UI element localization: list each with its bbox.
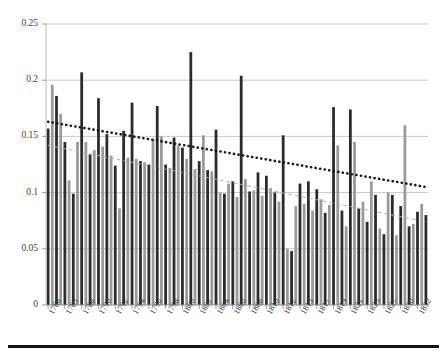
bar xyxy=(114,166,117,305)
chart-container: 00.050.10.150.20.25 17681783178817901792… xyxy=(0,0,447,360)
bottom-divider-rule xyxy=(8,345,439,348)
bar xyxy=(202,135,205,305)
bar xyxy=(223,194,226,305)
y-tick-label: 0.05 xyxy=(2,243,38,253)
bar xyxy=(181,148,184,305)
bar xyxy=(273,193,276,305)
bar xyxy=(189,52,192,305)
bar xyxy=(320,199,323,305)
bar xyxy=(206,170,209,305)
bar xyxy=(84,142,87,305)
bar xyxy=(80,72,83,305)
bar xyxy=(303,204,306,305)
bar xyxy=(299,184,302,305)
bar xyxy=(227,184,230,305)
y-tick-label: 0.2 xyxy=(2,74,38,84)
bar xyxy=(135,159,138,305)
y-tick-label: 0.1 xyxy=(2,187,38,197)
bar xyxy=(261,196,264,305)
bar xyxy=(404,125,407,305)
bar xyxy=(269,188,272,305)
bar xyxy=(101,147,104,305)
bar xyxy=(160,136,163,305)
bar xyxy=(412,224,415,305)
bar xyxy=(328,205,331,305)
bar xyxy=(143,162,146,305)
bar xyxy=(341,211,344,305)
bar xyxy=(47,129,50,305)
bar xyxy=(332,107,335,305)
bar xyxy=(416,212,419,305)
bar xyxy=(59,114,62,305)
bar xyxy=(105,134,108,305)
bar xyxy=(425,215,428,305)
bar xyxy=(210,171,213,305)
bar xyxy=(72,194,75,305)
bar xyxy=(307,181,310,305)
bar xyxy=(353,142,356,305)
y-tick-label: 0 xyxy=(2,299,38,309)
bar xyxy=(383,234,386,305)
bar xyxy=(244,179,247,305)
bar xyxy=(76,142,79,305)
bar xyxy=(294,206,297,305)
bar xyxy=(231,181,234,305)
bar xyxy=(126,158,129,305)
bar xyxy=(362,202,365,305)
bar xyxy=(198,161,201,305)
bar xyxy=(265,176,268,305)
bar xyxy=(395,235,398,305)
bar xyxy=(248,191,251,305)
bar xyxy=(282,135,285,305)
bar xyxy=(399,206,402,305)
bar xyxy=(177,145,180,305)
bar xyxy=(147,165,150,306)
bar xyxy=(173,138,176,305)
bar xyxy=(374,195,377,305)
bar xyxy=(311,211,314,305)
bar xyxy=(55,96,58,305)
bar xyxy=(110,156,113,305)
bar xyxy=(387,193,390,305)
bar xyxy=(64,142,67,305)
bar xyxy=(357,208,360,305)
bar xyxy=(315,189,318,305)
bar xyxy=(215,130,218,305)
bar xyxy=(93,150,96,305)
bar xyxy=(366,222,369,305)
bar xyxy=(324,213,327,305)
bar xyxy=(122,131,125,305)
bar xyxy=(219,193,222,305)
trendline-upper-trend xyxy=(48,122,426,187)
bar xyxy=(152,140,155,305)
bar xyxy=(89,154,92,305)
bar xyxy=(139,161,142,305)
bar xyxy=(131,103,134,305)
bar xyxy=(391,195,394,305)
bar xyxy=(236,197,239,305)
bar xyxy=(345,226,348,305)
bar xyxy=(156,106,159,305)
y-tick-label: 0.15 xyxy=(2,130,38,140)
bar xyxy=(168,168,171,305)
bar xyxy=(336,145,339,305)
bar xyxy=(257,172,260,305)
bar xyxy=(278,202,281,305)
bar xyxy=(420,204,423,305)
bar xyxy=(185,159,188,305)
bar xyxy=(51,85,54,305)
bar xyxy=(378,229,381,305)
bar xyxy=(118,208,121,305)
bar xyxy=(240,76,243,305)
bar xyxy=(370,181,373,305)
bar xyxy=(252,190,255,305)
bar xyxy=(68,180,71,305)
bar xyxy=(408,226,411,305)
bar xyxy=(164,165,167,306)
bar xyxy=(194,169,197,305)
y-tick-label: 0.25 xyxy=(2,18,38,28)
